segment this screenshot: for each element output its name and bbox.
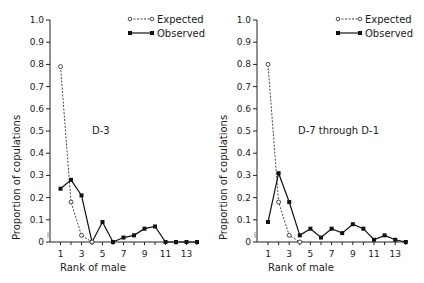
- legend-observed-marker: [336, 31, 340, 35]
- x-axis-title: Rank of male: [60, 262, 126, 273]
- y-tick-label: 0.9: [237, 37, 252, 47]
- y-tick-label: 0.7: [237, 82, 251, 92]
- x-tick-label: 9: [142, 249, 148, 259]
- observed-marker: [59, 187, 63, 191]
- x-tick-label: 11: [368, 249, 379, 259]
- observed-marker: [185, 240, 189, 244]
- legend-expected-marker: [358, 17, 362, 21]
- x-tick-label: 5: [308, 249, 314, 259]
- observed-marker: [80, 193, 84, 197]
- x-tick-label: 1: [58, 249, 64, 259]
- x-tick-label: 7: [121, 249, 127, 259]
- expected-line: [268, 64, 300, 242]
- expected-marker: [90, 240, 94, 244]
- observed-marker: [330, 227, 334, 231]
- expected-marker: [69, 200, 73, 204]
- expected-marker: [298, 240, 302, 244]
- observed-marker: [383, 233, 387, 237]
- y-tick-label: 0.3: [30, 170, 44, 180]
- observed-marker: [372, 238, 376, 242]
- observed-marker: [266, 220, 270, 224]
- y-tick-label: 1.0: [237, 15, 252, 25]
- x-tick-label: 11: [160, 249, 171, 259]
- legend-expected-marker: [128, 17, 132, 21]
- y-tick-label: 0.3: [237, 170, 251, 180]
- y-tick-label: 1.0: [30, 15, 45, 25]
- y-axis-title: Proportion of copulations: [218, 115, 229, 240]
- chart-panel-d3: 00.10.20.30.40.50.60.70.80.91.0135791113…: [11, 14, 205, 273]
- x-tick-label: 13: [389, 249, 400, 259]
- y-tick-label: 0: [245, 237, 251, 247]
- x-tick-label: 5: [100, 249, 106, 259]
- legend-expected-label: Expected: [157, 14, 204, 25]
- observed-marker: [361, 227, 365, 231]
- x-tick-label: 7: [329, 249, 335, 259]
- x-axis-title: Rank of male: [268, 262, 334, 273]
- y-tick-label: 0.4: [30, 148, 45, 158]
- observed-marker: [287, 200, 291, 204]
- observed-marker: [308, 227, 312, 231]
- observed-marker: [195, 240, 199, 244]
- x-tick-label: 13: [181, 249, 192, 259]
- observed-marker: [164, 240, 168, 244]
- x-tick-label: 3: [79, 249, 85, 259]
- y-axis-title: Proportion of copulations: [11, 115, 22, 240]
- y-tick-label: 0.8: [30, 59, 45, 69]
- observed-marker: [101, 220, 105, 224]
- x-tick-label: 9: [350, 249, 356, 259]
- chart-panel-d7-d1: 00.10.20.30.40.50.60.70.80.91.0135791113…: [218, 14, 413, 273]
- observed-marker: [174, 240, 178, 244]
- legend-expected-label: Expected: [365, 14, 412, 25]
- legend-observed-marker: [150, 31, 154, 35]
- expected-marker: [277, 200, 281, 204]
- observed-marker: [153, 224, 157, 228]
- legend-expected-marker: [336, 17, 340, 21]
- y-tick-label: 0.1: [237, 215, 251, 225]
- observed-marker: [404, 240, 408, 244]
- panel-label: D-7 through D-1: [298, 125, 379, 136]
- legend-observed-marker: [128, 31, 132, 35]
- chart-figure: 00.10.20.30.40.50.60.70.80.91.0135791113…: [0, 0, 424, 283]
- panel-label: D-3: [92, 125, 110, 136]
- y-tick-label: 0.1: [30, 215, 44, 225]
- y-tick-label: 0.2: [30, 193, 44, 203]
- y-tick-label: 0.5: [237, 126, 251, 136]
- expected-marker: [287, 233, 291, 237]
- expected-marker: [59, 65, 63, 69]
- legend-observed-label: Observed: [365, 28, 413, 39]
- expected-line: [61, 67, 93, 242]
- observed-marker: [122, 236, 126, 240]
- observed-marker: [319, 236, 323, 240]
- observed-marker: [351, 222, 355, 226]
- x-tick-label: 3: [286, 249, 292, 259]
- y-tick-label: 0.7: [30, 82, 44, 92]
- observed-marker: [111, 240, 115, 244]
- observed-marker: [132, 233, 136, 237]
- y-tick-label: 0.8: [237, 59, 252, 69]
- legend-expected-marker: [150, 17, 154, 21]
- y-tick-label: 0.6: [237, 104, 252, 114]
- expected-marker: [80, 233, 84, 237]
- x-tick-label: 1: [265, 249, 271, 259]
- observed-marker: [298, 233, 302, 237]
- legend-observed-label: Observed: [157, 28, 205, 39]
- y-tick-label: 0.9: [30, 37, 45, 47]
- legend-observed-marker: [358, 31, 362, 35]
- observed-marker: [143, 227, 147, 231]
- y-tick-label: 0.5: [30, 126, 44, 136]
- observed-line: [268, 173, 406, 242]
- observed-marker: [69, 178, 73, 182]
- observed-marker: [340, 231, 344, 235]
- y-tick-label: 0: [38, 237, 44, 247]
- y-tick-label: 0.6: [30, 104, 45, 114]
- expected-marker: [266, 62, 270, 66]
- y-tick-label: 0.4: [237, 148, 252, 158]
- observed-marker: [277, 171, 281, 175]
- y-tick-label: 0.2: [237, 193, 251, 203]
- observed-marker: [393, 238, 397, 242]
